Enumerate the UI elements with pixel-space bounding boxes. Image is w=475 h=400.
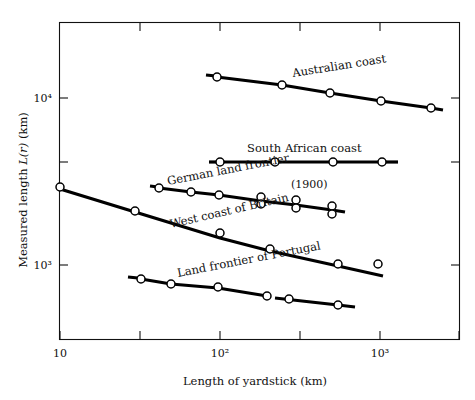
y-axis-title-symbol: L(r)	[16, 143, 30, 166]
data-point	[329, 158, 337, 166]
data-point	[155, 184, 163, 192]
data-point	[328, 202, 336, 210]
data-point	[292, 204, 300, 212]
plot-frame	[60, 23, 460, 340]
data-point	[328, 210, 336, 218]
data-point	[377, 97, 385, 105]
data-point	[131, 207, 139, 215]
svg-text:Measured length L(r) (km): Measured length L(r) (km)	[16, 112, 30, 268]
data-point	[263, 292, 271, 300]
y-tick-label-10000: 10⁴	[34, 92, 53, 105]
series-australian-coast: Australian coast	[206, 51, 443, 112]
data-point	[216, 229, 224, 237]
data-point	[278, 81, 286, 89]
series-label-german-land-frontier: German land frontier	[166, 150, 291, 187]
richardson-plot-svg: 10 10² 10³ 10⁴ 10³ Length of yardstick (…	[0, 0, 475, 400]
data-point	[214, 283, 222, 291]
data-point	[137, 275, 145, 283]
data-point	[56, 183, 64, 191]
data-point	[378, 158, 386, 166]
data-point	[334, 301, 342, 309]
data-point	[334, 260, 342, 268]
data-point	[374, 260, 382, 268]
y-axis-ticks-left	[60, 98, 69, 265]
x-tick-label-10: 10	[53, 347, 67, 360]
data-point	[215, 191, 223, 199]
data-point	[167, 280, 175, 288]
data-point	[326, 89, 334, 97]
data-point	[213, 73, 221, 81]
data-point	[285, 295, 293, 303]
series-land-frontier-of-portugal: Land frontier of Portugal	[128, 238, 355, 309]
x-tick-label-1000: 10³	[371, 347, 389, 360]
y-tick-label-1000: 10³	[34, 259, 52, 272]
x-axis-title: Length of yardstick (km)	[183, 374, 327, 388]
figure-root: 10 10² 10³ 10⁴ 10³ Length of yardstick (…	[0, 0, 475, 400]
y-axis-title-prefix: Measured length	[16, 165, 30, 268]
series-label-australian-coast: Australian coast	[290, 51, 387, 80]
y-axis-ticks-right	[451, 98, 460, 265]
series-label-south-african-coast: South African coast	[247, 141, 362, 155]
y-axis-title-suffix: (km)	[16, 112, 30, 143]
annotation-1900: (1900)	[291, 178, 328, 191]
x-tick-label-100: 10²	[211, 347, 229, 360]
data-point	[427, 104, 435, 112]
y-axis-title: Measured length L(r) (km)	[16, 112, 30, 268]
x-axis-ticks-top	[140, 23, 380, 32]
data-point	[187, 188, 195, 196]
x-axis-ticks-bottom	[60, 331, 459, 340]
data-point	[292, 196, 300, 204]
